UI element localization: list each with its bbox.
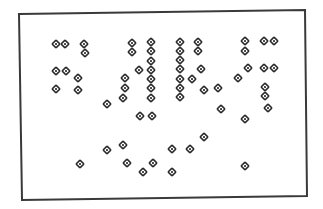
diamond-marker-icon [139, 168, 148, 177]
diamond-marker-icon [147, 75, 156, 84]
diamond-marker-icon [168, 168, 177, 177]
diamond-marker-icon [147, 94, 156, 103]
diamond-marker-icon [74, 86, 83, 95]
diamond-marker-icon [80, 40, 89, 49]
diamond-marker-icon [128, 48, 137, 57]
diamond-marker-icon [241, 47, 250, 56]
diamond-marker-icon [103, 100, 112, 109]
diamond-marker-icon [147, 38, 156, 47]
diamond-marker-icon [200, 86, 209, 95]
diamond-marker-icon [52, 85, 61, 94]
diamond-marker-icon [176, 56, 185, 65]
diamond-marker-icon [119, 94, 128, 103]
diamond-marker-icon [214, 84, 223, 93]
diamond-marker-icon [176, 75, 185, 84]
diamond-marker-icon [270, 37, 279, 46]
diamond-marker-icon [188, 75, 197, 84]
diamond-marker-icon [241, 115, 250, 124]
diamond-marker-icon [147, 66, 156, 75]
diamond-marker-icon [128, 39, 137, 48]
diamond-marker-icon [200, 133, 209, 142]
diamond-marker-icon [135, 66, 144, 75]
diamond-marker-icon [147, 84, 156, 93]
diamond-marker-icon [52, 67, 61, 76]
diamond-marker-icon [197, 65, 206, 74]
diamond-marker-icon [217, 105, 226, 114]
diamond-marker-icon [147, 47, 156, 56]
diamond-marker-icon [81, 49, 90, 58]
diamond-marker-icon [186, 145, 195, 154]
diamond-marker-icon [176, 38, 185, 47]
diamond-marker-icon [176, 65, 185, 74]
diamond-marker-icon [61, 40, 70, 49]
diamond-marker-icon [62, 67, 71, 76]
diamond-marker-icon [76, 160, 85, 169]
diamond-marker-icon [52, 40, 61, 49]
diamond-marker-icon [270, 64, 279, 73]
diamond-marker-icon [241, 37, 250, 46]
diamond-marker-icon [241, 162, 250, 171]
diamond-marker-icon [261, 92, 270, 101]
diamond-marker-icon [121, 84, 130, 93]
diamond-marker-icon [260, 64, 269, 73]
diamond-marker-icon [244, 64, 253, 73]
diamond-marker-icon [74, 74, 83, 83]
diagram-frame [0, 0, 323, 209]
diamond-marker-icon [103, 146, 112, 155]
diamond-marker-icon [264, 104, 273, 113]
diamond-marker-icon [194, 38, 203, 47]
diamond-marker-icon [147, 57, 156, 66]
diamond-marker-icon [121, 74, 130, 83]
diamond-marker-icon [176, 84, 185, 93]
diamond-marker-icon [194, 47, 203, 56]
diamond-marker-icon [136, 112, 145, 121]
diamond-marker-icon [149, 159, 158, 168]
diamond-marker-icon [168, 145, 177, 154]
diagram-canvas [0, 0, 323, 209]
diamond-marker-icon [119, 141, 128, 150]
diamond-marker-icon [260, 37, 269, 46]
diamond-marker-icon [261, 83, 270, 92]
diamond-marker-icon [123, 159, 132, 168]
diamond-marker-icon [148, 112, 157, 121]
diamond-marker-icon [234, 74, 243, 83]
diamond-marker-icon [176, 47, 185, 56]
diamond-marker-icon [176, 93, 185, 102]
